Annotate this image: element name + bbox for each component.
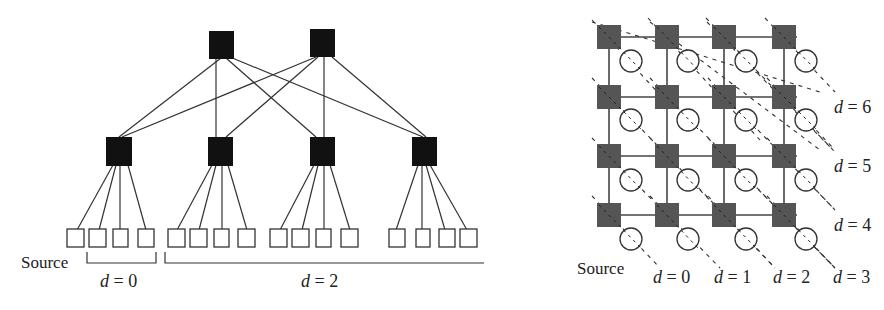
pe-node bbox=[677, 50, 699, 72]
leaf-node bbox=[292, 229, 309, 247]
leaf-node bbox=[238, 229, 255, 247]
mesh-source-label: Source bbox=[577, 259, 624, 278]
leaf-node bbox=[416, 229, 430, 247]
distance-label-d0: d = 0 bbox=[100, 271, 137, 291]
pe-node bbox=[735, 228, 757, 250]
pe-node bbox=[795, 50, 817, 72]
mesh-diagram: Source d = 0 d = 1 d = 2 d = 3 d = 6 d =… bbox=[577, 18, 871, 287]
leaf-node bbox=[113, 229, 128, 247]
leaf-node bbox=[316, 229, 331, 247]
bracket-d0 bbox=[87, 252, 156, 263]
pe-node bbox=[735, 109, 757, 131]
mesh-label-d2: d = 2 bbox=[773, 267, 810, 287]
edge-switch bbox=[106, 137, 132, 166]
edge-switch bbox=[310, 137, 335, 166]
distance-label-d2: d = 2 bbox=[301, 271, 338, 291]
leaf-node bbox=[89, 229, 106, 247]
pe-node bbox=[620, 109, 642, 131]
fat-tree-diagram: Source d = 0 d = 2 bbox=[21, 29, 484, 291]
pe-node bbox=[620, 50, 642, 72]
leaf-links bbox=[77, 165, 467, 230]
leaf-node bbox=[67, 229, 84, 247]
top-switch bbox=[209, 31, 234, 59]
leaf-node bbox=[439, 229, 455, 247]
top-switch bbox=[310, 29, 335, 57]
pe-node bbox=[735, 169, 757, 191]
mesh-label-d4: d = 4 bbox=[834, 215, 871, 235]
top-links bbox=[119, 57, 426, 137]
leaf-nodes bbox=[67, 229, 477, 247]
mesh-label-d6: d = 6 bbox=[834, 97, 871, 117]
bracket-d2 bbox=[165, 252, 484, 263]
mesh-label-d0: d = 0 bbox=[653, 267, 690, 287]
leaf-node bbox=[341, 229, 358, 247]
mesh-label-d3: d = 3 bbox=[833, 267, 870, 287]
mesh-label-d1: d = 1 bbox=[714, 267, 751, 287]
pe-node bbox=[677, 169, 699, 191]
leaf-node bbox=[270, 229, 287, 247]
leaf-node bbox=[460, 229, 477, 247]
leaf-node bbox=[168, 229, 185, 247]
leaf-node bbox=[389, 229, 405, 247]
pe-node bbox=[620, 169, 642, 191]
leaf-node bbox=[190, 229, 207, 247]
pe-node bbox=[677, 109, 699, 131]
leaf-node bbox=[138, 229, 154, 247]
pe-node bbox=[795, 228, 817, 250]
pe-node bbox=[620, 228, 642, 250]
source-label: Source bbox=[21, 253, 68, 272]
leaf-node bbox=[214, 229, 229, 247]
figure-canvas: Source d = 0 d = 2 bbox=[0, 0, 884, 310]
pe-node bbox=[735, 50, 757, 72]
edge-switch bbox=[412, 137, 437, 166]
mesh-label-d5: d = 5 bbox=[834, 156, 871, 176]
pe-node bbox=[795, 109, 817, 131]
edge-switch bbox=[208, 137, 233, 166]
pe-node bbox=[677, 228, 699, 250]
pe-node bbox=[795, 169, 817, 191]
